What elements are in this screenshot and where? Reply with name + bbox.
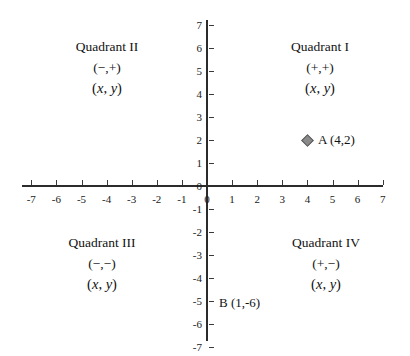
- y-axis-tick-label: 0: [182, 181, 202, 192]
- point-a-label: A (4,2): [318, 133, 355, 146]
- x-axis-tick-label: 2: [246, 194, 268, 205]
- y-axis-tick-label: -4: [182, 273, 202, 284]
- y-axis-tick-label: 3: [182, 112, 202, 123]
- x-axis-tick-label: -7: [20, 194, 42, 205]
- y-axis-tick: [209, 140, 214, 141]
- y-axis-tick-label: 6: [182, 43, 202, 54]
- y-axis-tick: [209, 301, 214, 302]
- x-axis-tick-label: 6: [347, 194, 369, 205]
- quadrant-4-coords: (x, y): [256, 274, 396, 295]
- x-axis-tick: [157, 180, 158, 185]
- x-axis-tick: [31, 180, 32, 185]
- y-axis-tick-label: -7: [182, 342, 202, 353]
- y-axis-tick: [209, 347, 214, 348]
- y-axis-tick-label: -6: [182, 319, 202, 330]
- x-axis-tick-label: -4: [96, 194, 118, 205]
- quadrant-1-signs: (+,+): [250, 57, 390, 78]
- y-axis-tick: [209, 94, 214, 95]
- x-axis-tick-label: 1: [221, 194, 243, 205]
- quadrant-4-annotation: Quadrant IV (+,−) (x, y): [256, 232, 396, 295]
- y-axis-tick: [209, 71, 214, 72]
- y-axis-tick-label: 4: [182, 89, 202, 100]
- point-b-label: B (1,-6): [219, 296, 260, 309]
- quadrant-3-title: Quadrant III: [27, 232, 177, 253]
- y-axis-tick-label: -1: [182, 204, 202, 215]
- x-axis-tick-label: 5: [322, 194, 344, 205]
- x-axis-tick: [56, 180, 57, 185]
- x-axis-tick: [82, 180, 83, 185]
- y-axis-tick-label: -2: [182, 227, 202, 238]
- quadrant-2-coords: (x, y): [32, 78, 182, 99]
- y-axis-tick: [209, 25, 214, 26]
- y-axis-tick-label: -3: [182, 250, 202, 261]
- x-axis-tick-label: -6: [45, 194, 67, 205]
- y-axis-tick: [209, 255, 214, 256]
- y-axis-tick-label: 7: [182, 20, 202, 31]
- coordinate-plane-figure: -7-6-5-4-3-2-10123456776543210-1-2-3-4-5…: [0, 0, 410, 356]
- y-axis-tick: [209, 209, 214, 210]
- y-axis-tick-label: 2: [182, 135, 202, 146]
- x-axis-tick: [358, 180, 359, 185]
- quadrant-3-signs: (−,−): [27, 253, 177, 274]
- point-a-marker: [301, 134, 314, 147]
- y-axis-tick: [209, 324, 214, 325]
- quadrant-2-signs: (−,+): [32, 57, 182, 78]
- quadrant-2-title: Quadrant II: [32, 36, 182, 57]
- quadrant-2-annotation: Quadrant II (−,+) (x, y): [32, 36, 182, 99]
- x-axis-tick-label: 7: [372, 194, 394, 205]
- y-axis-tick-label: 5: [182, 66, 202, 77]
- quadrant-3-annotation: Quadrant III (−,−) (x, y): [27, 232, 177, 295]
- y-axis-tick: [209, 232, 214, 233]
- x-axis-tick: [307, 180, 308, 185]
- y-axis-tick: [209, 278, 214, 279]
- y-axis-tick-label: -5: [182, 296, 202, 307]
- y-axis-line: [206, 20, 208, 341]
- y-axis-tick-label: 1: [182, 158, 202, 169]
- x-axis-tick: [132, 180, 133, 185]
- x-axis-tick: [232, 180, 233, 185]
- quadrant-4-title: Quadrant IV: [256, 232, 396, 253]
- x-axis-line: [22, 185, 383, 187]
- quadrant-1-annotation: Quadrant I (+,+) (x, y): [250, 36, 390, 99]
- x-axis-tick: [107, 180, 108, 185]
- y-axis-tick: [209, 163, 214, 164]
- quadrant-4-signs: (+,−): [256, 253, 396, 274]
- x-axis-tick: [333, 180, 334, 185]
- x-axis-tick-label: 3: [271, 194, 293, 205]
- quadrant-1-coords: (x, y): [250, 78, 390, 99]
- y-axis-tick: [209, 117, 214, 118]
- x-axis-tick: [383, 180, 384, 185]
- x-axis-tick: [257, 180, 258, 185]
- x-axis-tick: [282, 180, 283, 185]
- x-axis-tick-label: -5: [71, 194, 93, 205]
- x-axis-tick-label: -2: [146, 194, 168, 205]
- quadrant-3-coords: (x, y): [27, 274, 177, 295]
- y-axis-tick: [209, 48, 214, 49]
- x-axis-tick-label: -3: [121, 194, 143, 205]
- x-axis-tick-label: 4: [296, 194, 318, 205]
- quadrant-1-title: Quadrant I: [250, 36, 390, 57]
